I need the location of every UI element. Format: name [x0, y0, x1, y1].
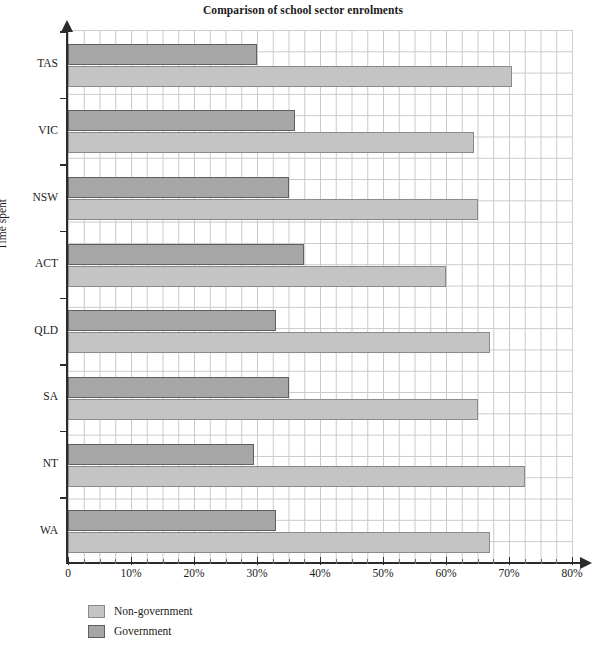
- y-axis-tick-qld: [60, 298, 68, 300]
- bar-non-government-qld: [68, 332, 490, 353]
- bar-non-government-wa: [68, 532, 490, 553]
- bar-government-vic: [68, 110, 295, 131]
- y-axis-tick-nsw: [60, 164, 68, 166]
- x-axis-minor-tick: [367, 559, 368, 564]
- x-axis-tick-20: [194, 557, 195, 565]
- legend-label-government: Government: [114, 625, 171, 637]
- x-axis-label-60: 60%: [435, 567, 456, 579]
- x-axis-tick-60: [446, 557, 447, 565]
- legend-item-non-government: Non-government: [88, 601, 193, 621]
- x-axis-label-10: 10%: [120, 567, 141, 579]
- y-axis-label-tas: TAS: [4, 57, 58, 69]
- x-axis-minor-tick: [100, 559, 101, 564]
- x-axis-minor-tick: [163, 559, 164, 564]
- y-axis-tick-wa: [60, 497, 68, 499]
- y-axis-label-nsw: NSW: [4, 191, 58, 203]
- x-axis-label-20: 20%: [183, 567, 204, 579]
- legend-swatch-government: [88, 625, 105, 638]
- x-axis-minor-tick: [415, 559, 416, 564]
- y-axis-tick-vic: [60, 98, 68, 100]
- bar-non-government-act: [68, 266, 446, 287]
- x-axis-minor-tick: [556, 559, 557, 564]
- chart-legend: Non-government Government: [88, 601, 193, 641]
- legend-item-government: Government: [88, 621, 193, 641]
- y-axis-tick-tas: [60, 31, 68, 33]
- x-axis-minor-tick: [241, 559, 242, 564]
- x-axis-minor-tick: [352, 559, 353, 564]
- x-axis-minor-tick: [493, 559, 494, 564]
- bar-non-government-sa: [68, 399, 478, 420]
- x-axis-minor-tick: [178, 559, 179, 564]
- bar-non-government-vic: [68, 132, 474, 153]
- x-axis-minor-tick: [210, 559, 211, 564]
- bar-non-government-tas: [68, 66, 512, 87]
- x-axis-minor-tick: [336, 559, 337, 564]
- x-axis-minor-tick: [273, 559, 274, 564]
- y-axis-tick-sa: [60, 364, 68, 366]
- x-axis-tick-50: [383, 557, 384, 565]
- x-axis-minor-tick: [399, 559, 400, 564]
- x-axis-minor-tick: [304, 559, 305, 564]
- x-axis-minor-tick: [289, 559, 290, 564]
- y-axis-tick-nt: [60, 431, 68, 433]
- x-axis-minor-tick: [147, 559, 148, 564]
- y-axis-label-qld: QLD: [4, 324, 58, 336]
- chart-title: Comparison of school sector enrolments: [0, 4, 606, 16]
- bar-non-government-nsw: [68, 199, 478, 220]
- bar-government-nt: [68, 444, 254, 465]
- x-axis-minor-tick: [226, 559, 227, 564]
- bar-government-act: [68, 244, 304, 265]
- x-axis-tick-70: [509, 557, 510, 565]
- y-axis-label-nt: NT: [4, 457, 58, 469]
- bar-government-wa: [68, 510, 276, 531]
- x-axis-label-50: 50%: [372, 567, 393, 579]
- bar-government-qld: [68, 310, 276, 331]
- x-axis-tick-30: [257, 557, 258, 565]
- y-axis-labels: TASVICNSWACTQLDSANTWA: [0, 0, 58, 652]
- x-axis-minor-tick: [541, 559, 542, 564]
- x-axis-minor-tick: [525, 559, 526, 564]
- x-axis-label-30: 30%: [246, 567, 267, 579]
- x-axis-minor-tick: [115, 559, 116, 564]
- x-axis-minor-tick: [84, 559, 85, 564]
- x-axis-tick-0: [68, 557, 69, 565]
- x-axis-line: [66, 562, 582, 564]
- legend-swatch-non-government: [88, 605, 105, 618]
- x-axis-minor-tick: [478, 559, 479, 564]
- bar-non-government-nt: [68, 466, 525, 487]
- x-axis-minor-tick: [430, 559, 431, 564]
- x-axis-label-0: 0: [65, 567, 71, 579]
- bar-government-sa: [68, 377, 289, 398]
- y-axis-title: Time spent: [0, 199, 8, 250]
- y-axis-tick-act: [60, 231, 68, 233]
- y-axis-label-act: ACT: [4, 257, 58, 269]
- x-axis-label-40: 40%: [309, 567, 330, 579]
- y-axis-label-wa: WA: [4, 524, 58, 536]
- x-axis-minor-tick: [462, 559, 463, 564]
- chart-container: Comparison of school sector enrolments T…: [0, 0, 606, 652]
- y-axis-line: [66, 30, 68, 563]
- y-axis-label-vic: VIC: [4, 124, 58, 136]
- bar-government-nsw: [68, 177, 289, 198]
- x-axis-tick-80: [572, 557, 573, 565]
- x-axis-label-80: 80%: [561, 567, 582, 579]
- x-axis-tick-40: [320, 557, 321, 565]
- bar-government-tas: [68, 44, 257, 65]
- legend-label-non-government: Non-government: [114, 605, 193, 617]
- x-axis-tick-10: [131, 557, 132, 565]
- plot-area: [68, 30, 573, 563]
- x-axis-label-70: 70%: [498, 567, 519, 579]
- y-axis-label-sa: SA: [4, 390, 58, 402]
